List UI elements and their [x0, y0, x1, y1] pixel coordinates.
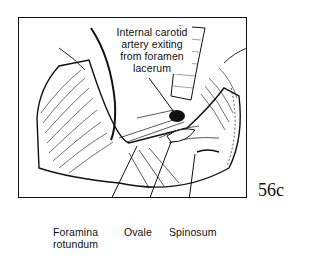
label-line: from foramen: [112, 50, 192, 62]
label-line: Foramina: [53, 226, 98, 238]
label-ovale: Ovale: [124, 226, 152, 238]
figure-number: 56c: [258, 180, 284, 201]
label-line: artery exiting: [112, 38, 192, 50]
label-spinosum: Spinosum: [169, 226, 217, 238]
label-foramina-rotundum: Foramina rotundum: [53, 226, 98, 250]
label-line: lacerum: [112, 62, 192, 74]
label-line: rotundum: [53, 238, 98, 250]
label-line: Internal carotid: [112, 26, 192, 38]
label-internal-carotid-artery: Internal carotid artery exiting from for…: [112, 26, 192, 74]
